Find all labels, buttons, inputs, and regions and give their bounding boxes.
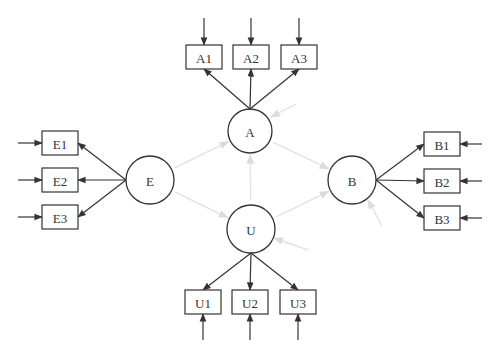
loading-arrow-A1 <box>204 69 250 109</box>
structural-path-E-A <box>175 142 228 168</box>
indicator-label: A2 <box>243 51 259 66</box>
latent-B: B <box>328 156 376 204</box>
latent-E: E <box>126 156 174 204</box>
latent-label: U <box>246 223 256 238</box>
structural-path-A-B <box>273 142 328 168</box>
loading-arrow-B3 <box>376 180 424 218</box>
loading-arrow-B1 <box>376 144 424 180</box>
disturbance-arrow-U <box>274 238 308 250</box>
indicator-U3: U3 <box>280 290 316 314</box>
indicator-B1: B1 <box>424 132 460 156</box>
indicator-label: U3 <box>290 296 306 311</box>
indicator-label: U1 <box>195 296 211 311</box>
indicator-B2: B2 <box>424 169 460 193</box>
disturbance-arrow-B <box>368 200 382 226</box>
structural-path-E-U <box>175 192 227 217</box>
indicator-label: A1 <box>196 51 212 66</box>
indicator-label: B1 <box>434 138 449 153</box>
structural-path-U-B <box>276 191 328 216</box>
loading-arrow-E1 <box>78 143 126 180</box>
latent-label: E <box>146 174 154 189</box>
latent-label: A <box>245 125 255 140</box>
latent-label: B <box>348 174 357 189</box>
indicator-label: A3 <box>291 51 307 66</box>
indicator-label: B3 <box>434 212 449 227</box>
loading-arrow-U3 <box>251 253 298 290</box>
loading-arrow-U1 <box>203 253 251 290</box>
indicator-label: E1 <box>53 137 67 152</box>
loading-arrow-A2 <box>250 69 251 109</box>
indicator-label: B2 <box>434 175 449 190</box>
latent-A: A <box>228 109 272 153</box>
sem-diagram: AEBU A1A2A3E1E2E3B1B2B3U1U2U3 <box>0 0 500 362</box>
indicator-A2: A2 <box>233 45 269 69</box>
indicator-B3: B3 <box>424 206 460 230</box>
indicator-U1: U1 <box>185 290 221 314</box>
indicator-E2: E2 <box>42 168 78 192</box>
indicator-U2: U2 <box>232 290 268 314</box>
indicator-label: E2 <box>53 174 67 189</box>
latent-U: U <box>227 205 275 253</box>
indicator-E3: E3 <box>42 205 78 229</box>
indicator-A3: A3 <box>281 45 317 69</box>
loading-arrow-A3 <box>250 69 299 109</box>
loading-arrow-B2 <box>376 180 424 181</box>
indicator-label: E3 <box>53 211 67 226</box>
disturbance-arrow-A <box>271 104 296 117</box>
loading-arrow-E3 <box>78 180 126 217</box>
indicator-label: U2 <box>242 296 258 311</box>
loading-arrow-U2 <box>250 253 251 290</box>
indicator-E1: E1 <box>42 131 78 155</box>
indicator-A1: A1 <box>186 45 222 69</box>
